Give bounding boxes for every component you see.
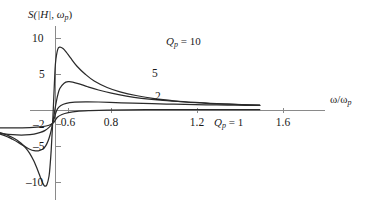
y-tick-label-neg10: –10 xyxy=(25,176,44,188)
curve-label-qp-1: Qp = 1 xyxy=(214,116,243,130)
x-tick-label-0-6: 0.6 xyxy=(61,116,76,128)
curve-label-qp-2: 2 xyxy=(155,90,161,102)
x-axis-label: ω/ωp xyxy=(330,93,352,107)
x-tick-label-0-8: 0.8 xyxy=(104,116,119,128)
x-tick-label-1-6: 1.6 xyxy=(276,116,291,128)
chart-figure: S(|H|, ωp) ω/ωp 10 5 –2 –5 –10 0.6 0.8 1… xyxy=(0,0,369,208)
chart-svg: S(|H|, ωp) ω/ωp 10 5 –2 –5 –10 0.6 0.8 1… xyxy=(0,0,369,208)
y-tick-label-5: 5 xyxy=(39,68,45,80)
x-tick-label-1-2: 1.2 xyxy=(190,116,205,128)
curve-label-qp-10: Qp = 10 xyxy=(166,35,201,49)
y-tick-label-10: 10 xyxy=(32,32,44,44)
y-tick-label-neg5: –5 xyxy=(32,140,45,152)
y-tick-label-neg2: –2 xyxy=(32,118,45,130)
y-axis-label: S(|H|, ωp) xyxy=(28,8,72,22)
curve-label-qp-5: 5 xyxy=(152,67,158,79)
